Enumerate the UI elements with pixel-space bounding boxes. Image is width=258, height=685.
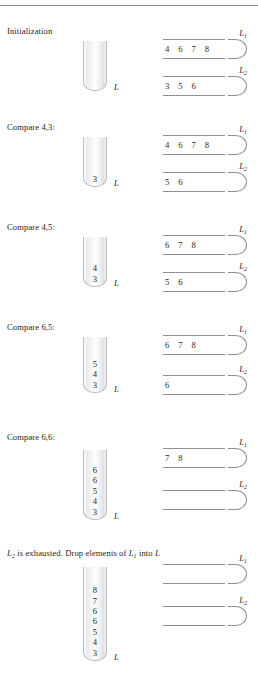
stack-L: 3456678 L [83, 567, 107, 661]
list-right-cap [227, 375, 247, 395]
list-right-cap [227, 335, 247, 355]
stack-item: 3 [93, 380, 97, 390]
top-divider [0, 5, 258, 6]
stack-item: 4 [93, 496, 97, 506]
stack-items: 3456678 [84, 585, 106, 658]
stack-tube: 3456678 [83, 567, 107, 661]
list-values: 3 5 6 [165, 81, 199, 92]
stack-item: 3 [93, 648, 97, 658]
stack-item: 6 [93, 465, 97, 475]
list-L1: 4 6 7 8 L1 [163, 39, 248, 59]
list-label-l1: L1 [239, 324, 247, 335]
list-right-cap [227, 172, 247, 192]
list-right-cap [227, 135, 247, 155]
list-L1: L1 [163, 564, 248, 584]
section-caption: Initialization [7, 26, 52, 37]
list-values: 5 6 [165, 177, 186, 188]
list-L2: L2 [163, 490, 248, 510]
section-caption: Compare 6,5: [7, 322, 55, 333]
stack-item: 7 [93, 596, 97, 606]
stack-items: 34 [84, 263, 106, 284]
stack-item: 8 [93, 585, 97, 595]
list-values: 7 8 [165, 453, 186, 464]
stack-item: 4 [93, 263, 97, 273]
list-label-l2: L2 [239, 595, 247, 606]
list-label-l1: L1 [239, 28, 247, 39]
list-right-cap [227, 448, 247, 468]
list-L1: 6 7 8 L1 [163, 235, 248, 255]
stack-L: 345 L [83, 337, 107, 393]
list-label-l2: L2 [239, 479, 247, 490]
list-L2: L2 [163, 606, 248, 626]
stack-label: L [114, 652, 119, 662]
list-values: 6 7 8 [165, 240, 199, 251]
stack-tube: 34 [83, 237, 107, 287]
list-label-l1: L1 [239, 124, 247, 135]
stack-L: 34 L [83, 237, 107, 287]
stack-items: 34566 [84, 465, 106, 517]
list-right-cap [227, 76, 247, 96]
section-caption: L2 is exhausted. Drop elements of L1 int… [7, 548, 160, 562]
stack-item: 6 [93, 616, 97, 626]
list-label-l1: L1 [239, 437, 247, 448]
stack-item: 3 [93, 274, 97, 284]
stack-item: 4 [93, 637, 97, 647]
list-label-l1: L1 [239, 553, 247, 564]
stack-item: 5 [93, 486, 97, 496]
list-right-cap [227, 272, 247, 292]
stack-label: L [114, 384, 119, 394]
list-values: 6 [165, 380, 173, 391]
stack-item: 6 [93, 606, 97, 616]
list-label-l2: L2 [239, 65, 247, 76]
list-L2: 6 L2 [163, 375, 248, 395]
list-label-l2: L2 [239, 261, 247, 272]
list-right-cap [227, 606, 247, 626]
stack-tube: 345 [83, 337, 107, 393]
list-L1: 6 7 8 L1 [163, 335, 248, 355]
figure-page: Initialization L 4 6 7 8 L1 3 5 6 L2 Com… [0, 0, 258, 685]
list-values: 4 6 7 8 [165, 44, 212, 55]
list-L2: 5 6 L2 [163, 172, 248, 192]
stack-L: L [83, 41, 107, 91]
stack-label: L [114, 511, 119, 521]
section-caption: Compare 4,5: [7, 222, 55, 233]
stack-tube: 34566 [83, 450, 107, 520]
stack-item: 4 [93, 369, 97, 379]
list-L1: 4 6 7 8 L1 [163, 135, 248, 155]
list-L2: 3 5 6 L2 [163, 76, 248, 96]
stack-label: L [114, 82, 119, 92]
stack-item: 6 [93, 475, 97, 485]
stack-items: 345 [84, 359, 106, 390]
stack-item: 3 [93, 174, 97, 184]
list-right-cap [227, 235, 247, 255]
stack-label: L [114, 178, 119, 188]
stack-label: L [114, 278, 119, 288]
list-label-l2: L2 [239, 161, 247, 172]
stack-items: 3 [84, 174, 106, 184]
stack-item: 3 [93, 507, 97, 517]
list-label-l2: L2 [239, 364, 247, 375]
stack-L: 34566 L [83, 450, 107, 520]
list-L2: 5 6 L2 [163, 272, 248, 292]
stack-tube [83, 41, 107, 91]
list-right-cap [227, 490, 247, 510]
section-caption: Compare 6,6: [7, 432, 55, 443]
stack-item: 5 [93, 359, 97, 369]
list-L1: 7 8 L1 [163, 448, 248, 468]
section-caption: Compare 4,3: [7, 122, 55, 133]
list-values: 4 6 7 8 [165, 140, 212, 151]
list-values: 5 6 [165, 277, 186, 288]
list-right-cap [227, 564, 247, 584]
stack-item: 5 [93, 627, 97, 637]
stack-L: 3 L [83, 137, 107, 187]
stack-tube: 3 [83, 137, 107, 187]
list-right-cap [227, 39, 247, 59]
list-label-l1: L1 [239, 224, 247, 235]
list-values: 6 7 8 [165, 340, 199, 351]
